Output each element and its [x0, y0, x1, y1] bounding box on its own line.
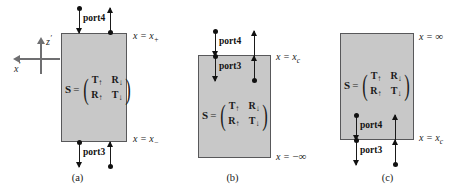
arrowhead-down [212, 76, 218, 82]
boundary-equals: = [283, 51, 290, 62]
cell-symbol: R [112, 74, 119, 85]
cell-subscript: ↓ [119, 78, 123, 88]
cell-symbol: R [370, 85, 377, 96]
cell-symbol: T [112, 89, 119, 100]
port4-outbound-arrow-b [254, 31, 255, 56]
s-matrix-cell-22: T↓ [249, 116, 260, 129]
boundary-var: x [419, 132, 423, 143]
panel-c: S = ( T↑ R↓ R↑ T↓ ) port4 port3 x = ∞ [310, 0, 465, 192]
caption-a: (a) [0, 172, 155, 183]
boundary-equals: = [426, 132, 433, 143]
port3-label-c: port3 [360, 145, 382, 155]
arrowhead-down [76, 28, 82, 34]
boundary-subscript: c [440, 137, 443, 146]
s-matrix-c: S = ( T↑ R↓ R↑ T↓ ) [344, 70, 412, 100]
s-matrix-cell-11: T↑ [228, 101, 239, 114]
cell-symbol: R [249, 100, 256, 111]
axis-vertical-label: z′ [46, 34, 52, 47]
s-matrix-open-paren: ( [221, 100, 227, 130]
boundary-equals: = [283, 151, 290, 162]
arrow-dot [108, 30, 113, 35]
arrowhead-up [107, 7, 113, 13]
arrowhead-up [251, 55, 257, 61]
port3-inbound-arrow-c [395, 140, 396, 165]
boundary-value: −∞ [292, 150, 306, 162]
arrow-dot [393, 162, 398, 167]
cell-subscript: ↑ [235, 104, 239, 114]
port4-inbound-arrow-c [356, 115, 357, 140]
arrow-dot [77, 6, 82, 11]
cell-symbol: T [391, 85, 398, 96]
cell-subscript: ↓ [256, 104, 260, 114]
arrowhead-up [392, 139, 398, 145]
panel-b: S = ( T↑ R↓ R↑ T↓ ) port4 port3 x = xc [155, 0, 310, 192]
s-matrix-cell-12: R↓ [112, 75, 123, 88]
boundary-equals: = [140, 133, 147, 144]
port4-inbound-arrow-a [79, 8, 80, 33]
s-matrix-cell-21: R↑ [228, 116, 239, 129]
cell-symbol: T [92, 74, 99, 85]
caption-c: (c) [310, 172, 465, 183]
arrowhead-up [251, 30, 257, 36]
cell-subscript: ↓ [256, 119, 260, 129]
boundary-label-b-top: x = xc [276, 51, 300, 65]
boundary-var: x [133, 133, 137, 144]
boundary-label-b-bottom: x = −∞ [276, 150, 306, 162]
cell-symbol: T [371, 70, 378, 81]
s-matrix-close-paren: ) [404, 70, 410, 100]
s-matrix-grid: T↑ R↓ R↑ T↓ [91, 75, 122, 103]
axis-horizontal-label: x′ [14, 61, 20, 74]
s-matrix-cell-22: T↓ [391, 86, 402, 99]
s-matrix-lhs: S [344, 79, 350, 91]
panel-a: z′ x′ S = ( T↑ R↓ R↑ T↓ ) port4 [0, 0, 155, 192]
arrow-dot [354, 138, 359, 143]
arrow-dot [354, 113, 359, 118]
arrowhead-down [76, 162, 82, 168]
boundary-var: x [133, 30, 137, 41]
cell-symbol: R [91, 89, 98, 100]
s-matrix-equals: = [352, 79, 358, 91]
s-matrix-cell-12: R↓ [391, 71, 402, 84]
s-matrix-open-paren: ( [84, 74, 90, 104]
cell-subscript: ↓ [398, 89, 402, 99]
port3-label-a: port3 [83, 147, 105, 157]
boundary-var: x [419, 31, 423, 42]
s-matrix-b: S = ( T↑ R↓ R↑ T↓ ) [202, 100, 270, 130]
port3-outbound-arrow-c [356, 140, 357, 165]
arrowhead-up [392, 114, 398, 120]
port4-outbound-arrow-c [395, 115, 396, 140]
cell-subscript: ↑ [98, 78, 102, 88]
port4-outbound-arrow-a [110, 8, 111, 33]
axis-vertical-arrowhead [37, 37, 45, 44]
arrow-dot [213, 54, 218, 59]
s-matrix-equals: = [73, 83, 79, 95]
s-matrix-cell-12: R↓ [249, 101, 260, 114]
port4-label-c: port4 [360, 120, 382, 130]
arrow-dot [252, 78, 257, 83]
cell-subscript: ↑ [99, 93, 103, 103]
boundary-label-c-bottom: x = xc [419, 132, 443, 146]
cell-symbol: T [229, 100, 236, 111]
axis-z-prime: ′ [50, 34, 52, 43]
caption-b: (b) [155, 172, 310, 183]
arrow-dot [108, 164, 113, 169]
port4-label-b: port4 [219, 36, 241, 46]
s-matrix-cell-22: T↓ [112, 90, 123, 103]
boundary-value: ∞ [435, 30, 443, 42]
arrow-dot [77, 140, 82, 145]
cell-subscript: ↓ [398, 74, 402, 84]
boundary-equals: = [140, 30, 147, 41]
cell-subscript: ↑ [377, 74, 381, 84]
s-matrix-lhs: S [202, 109, 208, 121]
boundary-label-c-top: x = ∞ [419, 30, 443, 42]
port3-inbound-arrow-a [110, 142, 111, 167]
port4-inbound-arrow-b [215, 31, 216, 56]
port3-outbound-arrow-b [215, 56, 216, 81]
boundary-subscript: c [297, 56, 300, 65]
port3-inbound-arrow-b [254, 56, 255, 81]
boundary-equals: = [426, 31, 433, 42]
arrow-dot [213, 29, 218, 34]
boundary-var: x [276, 151, 280, 162]
cell-symbol: R [391, 70, 398, 81]
axis-x-prime: ′ [18, 61, 20, 70]
